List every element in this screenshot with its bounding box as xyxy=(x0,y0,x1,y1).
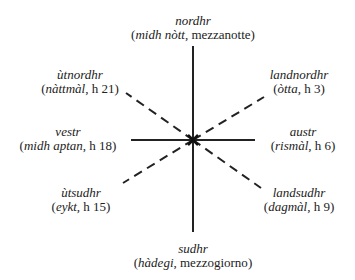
direction-name: ùtsudhr xyxy=(52,186,111,200)
time-term: rismàl xyxy=(275,138,308,153)
time-term: midh nòtt xyxy=(135,27,184,42)
direction-name: nordhr xyxy=(131,14,255,28)
label-northeast: landnordhr (òtta, h 3) xyxy=(270,68,329,96)
direction-name: ùtnordhr xyxy=(41,68,119,82)
time-term: nàttmàl xyxy=(46,81,86,96)
northeast-dashed-line xyxy=(193,97,264,140)
time-term: hàdegi xyxy=(138,255,173,270)
direction-name: landsudhr xyxy=(264,186,334,200)
direction-name: landnordhr xyxy=(270,68,329,82)
time-term: midh aptan xyxy=(24,138,83,153)
time-term: dagmàl xyxy=(268,199,307,214)
southwest-dashed-line xyxy=(123,140,193,183)
southeast-dashed-line xyxy=(193,140,261,188)
direction-name: vestr xyxy=(20,125,117,139)
label-east: austr (rismàl, h 6) xyxy=(271,125,336,153)
label-southeast: landsudhr (dagmàl, h 9) xyxy=(264,186,334,214)
label-west: vestr (midh aptan, h 18) xyxy=(20,125,117,153)
direction-name: austr xyxy=(271,125,336,139)
label-southwest: ùtsudhr (eykt, h 15) xyxy=(52,186,111,214)
label-northwest: ùtnordhr (nàttmàl, h 21) xyxy=(41,68,119,96)
time-term: òtta xyxy=(278,81,298,96)
label-south: sudhr (hàdegi, mezzogiorno) xyxy=(134,242,252,270)
northwest-dashed-line xyxy=(126,93,193,140)
label-north: nordhr (midh nòtt, mezzanotte) xyxy=(131,14,255,42)
direction-name: sudhr xyxy=(134,242,252,256)
time-term: eykt xyxy=(56,199,77,214)
